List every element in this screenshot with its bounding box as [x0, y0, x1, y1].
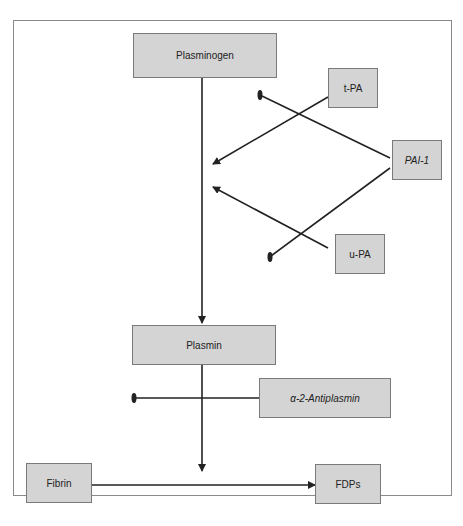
node-label: Plasminogen	[176, 50, 234, 61]
inhibition-cap-tpa	[258, 90, 263, 100]
pathway-edges	[0, 0, 463, 526]
node-plasminogen: Plasminogen	[133, 33, 277, 78]
node-tpa: t-PA	[328, 68, 378, 108]
node-label: PAI-1	[405, 155, 429, 166]
node-upa: u-PA	[335, 234, 385, 274]
node-label: u-PA	[349, 249, 371, 260]
inhibition-cap-upa	[268, 252, 273, 262]
edge-tpa-activation	[213, 97, 328, 164]
node-label: α-2-Antiplasmin	[290, 393, 360, 404]
node-fibrin: Fibrin	[26, 463, 92, 503]
edge-upa-activation	[213, 187, 328, 248]
inhibition-cap-plasmin	[132, 393, 137, 403]
node-label: FDPs	[336, 479, 361, 490]
node-label: Fibrin	[46, 478, 71, 489]
node-antiplasmin: α-2-Antiplasmin	[259, 378, 391, 418]
node-fdps: FDPs	[315, 464, 381, 504]
node-pai1: PAI-1	[392, 140, 442, 180]
node-plasmin: Plasmin	[132, 325, 276, 365]
node-label: t-PA	[344, 83, 363, 94]
node-label: Plasmin	[186, 340, 222, 351]
